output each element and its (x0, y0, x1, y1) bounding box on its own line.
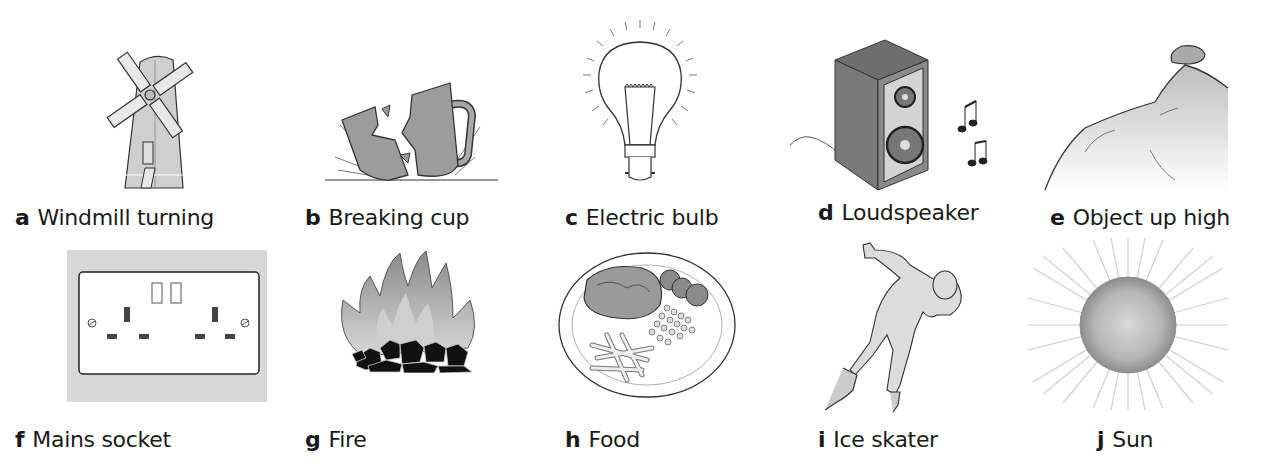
item-letter: a (15, 205, 30, 230)
item-letter: j (1097, 427, 1104, 452)
item-label: Breaking cup (328, 205, 469, 230)
item-label: Windmill turning (38, 205, 214, 230)
breaking-cup-icon (320, 45, 500, 185)
caption: gFire (305, 427, 367, 452)
item-label: Fire (328, 427, 366, 452)
item-label: Object up high (1073, 205, 1230, 230)
caption: eObject up high (1050, 205, 1230, 230)
item-letter: i (818, 427, 825, 452)
item-label: Ice skater (833, 427, 938, 452)
item-label: Mains socket (32, 427, 171, 452)
caption: hFood (565, 427, 640, 452)
caption: iIce skater (818, 427, 938, 452)
light-bulb-icon (575, 15, 705, 190)
item-label: Electric bulb (586, 205, 719, 230)
item-letter: g (305, 427, 320, 452)
item-label: Sun (1112, 427, 1153, 452)
power-socket-icon (67, 250, 267, 402)
sun-icon (1023, 238, 1233, 413)
item-letter: b (305, 205, 320, 230)
food-plate-icon (552, 250, 742, 400)
rock-on-cliff-icon (1040, 40, 1240, 195)
caption: jSun (1097, 427, 1153, 452)
caption: fMains socket (15, 427, 171, 452)
item-label: Food (588, 427, 640, 452)
caption: aWindmill turning (15, 205, 214, 230)
caption: dLoudspeaker (818, 200, 978, 225)
ice-skater-icon (815, 240, 965, 415)
item-letter: e (1050, 205, 1065, 230)
windmill-icon (95, 40, 210, 190)
item-letter: d (818, 200, 833, 225)
item-letter: f (15, 427, 24, 452)
caption: bBreaking cup (305, 205, 469, 230)
fire-icon (328, 248, 488, 373)
caption: cElectric bulb (565, 205, 718, 230)
item-label: Loudspeaker (841, 200, 978, 225)
item-letter: h (565, 427, 580, 452)
loudspeaker-icon (785, 35, 1000, 195)
item-letter: c (565, 205, 578, 230)
